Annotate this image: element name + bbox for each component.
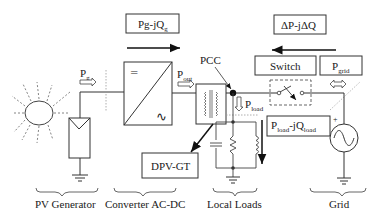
dpv-gt-signal-arrow (191, 124, 213, 152)
dpv-gt-label: DPV-GT (151, 160, 191, 172)
transformer-box (196, 84, 226, 124)
pg-jqg-sub: g (164, 25, 168, 33)
pgrid-bidirectional-arrow-icon (330, 80, 346, 88)
section-braces (36, 188, 366, 196)
capacitor-icon (210, 140, 222, 148)
section-label-grid: Grid (329, 198, 350, 210)
pload-jq-sub2: load (304, 126, 317, 134)
dc-symbol-icon: ═ (130, 67, 138, 77)
pcc-label: PCC (200, 54, 221, 66)
dp-jdq-label: ΔP-jΔQ (281, 19, 316, 31)
inductor-icon (250, 136, 262, 154)
svg-text:Pload: Pload (245, 98, 264, 113)
switch-box: Switch (255, 56, 316, 75)
sun-icon (12, 82, 70, 143)
section-label-local-loads: Local Loads (207, 198, 262, 210)
polarity-plus-label: + (333, 115, 338, 124)
diagram-canvas: Pg-jQg ΔP-jΔQ Switch Pgrid (0, 0, 391, 220)
pload-jq-sub1: load (277, 126, 290, 134)
pg-jqg-main: Pg-jQ (138, 18, 164, 30)
load-node-top (231, 120, 235, 124)
pg-jqg-box: Pg-jQg (126, 14, 179, 33)
switch-label: Switch (270, 60, 301, 72)
pv-wire (80, 92, 124, 118)
ground-icon-loads (226, 177, 240, 183)
pload-jqload-box: Pload-jQload (267, 116, 330, 136)
pload-label-sub: load (251, 105, 264, 113)
ac-symbol-icon: ∿ (156, 109, 167, 124)
ac-source-icon (330, 124, 358, 152)
converter-box: ═ ∿ (124, 62, 172, 125)
section-label-converter: Converter AC-DC (105, 198, 185, 210)
section-label-pv-generator: PV Generator (35, 198, 96, 210)
pgrid-box: Pgrid (320, 56, 362, 75)
dp-jdq-box: ΔP-jΔQ (274, 15, 326, 34)
pv-panel-icon (69, 118, 90, 158)
dpv-gt-box: DPV-GT (142, 153, 198, 178)
ground-icon-pv (72, 175, 88, 181)
pload-jq-mid: -jQ (289, 119, 304, 131)
pload-flow-arrow-icon (235, 97, 243, 111)
pgrid-sub: grid (338, 67, 350, 75)
resistor-icon (229, 136, 237, 154)
ground-icon-grid (337, 178, 351, 184)
switch-icon (270, 80, 311, 105)
